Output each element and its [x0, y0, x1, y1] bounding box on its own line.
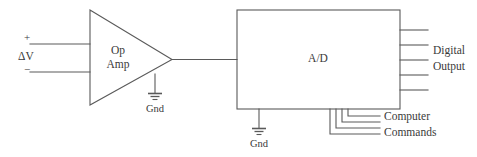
computer-command-line-1	[348, 109, 380, 116]
op-amp-label-line1: Op	[100, 44, 136, 58]
op-amp-ground-label: Gnd	[135, 103, 175, 115]
computer-commands-label-line1: Computer	[384, 110, 430, 124]
digital-output-label-line1: Digital	[433, 44, 465, 58]
op-amp-label-line2: Amp	[100, 58, 136, 72]
circuit-block-diagram: + ΔV − Op Amp Gnd A/D Gnd Digital Output…	[0, 0, 477, 157]
computer-command-line-3	[336, 109, 380, 128]
op-amp-minus-label: −	[24, 63, 31, 76]
adc-label: A/D	[298, 52, 338, 66]
op-amp-differential-label: ΔV	[18, 50, 34, 64]
op-amp-plus-label: +	[24, 31, 31, 44]
adc-ground-label: Gnd	[239, 138, 279, 150]
digital-output-label-line2: Output	[433, 60, 465, 74]
computer-commands-label-line2: Commands	[384, 126, 436, 140]
